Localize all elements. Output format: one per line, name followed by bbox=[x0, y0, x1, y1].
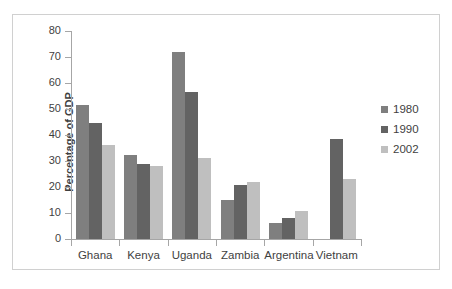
x-axis-category-label: Uganda bbox=[168, 248, 216, 263]
bar bbox=[150, 166, 163, 239]
bar bbox=[247, 182, 260, 239]
bar bbox=[89, 123, 102, 239]
y-axis-tick-label: 40 bbox=[49, 128, 61, 141]
legend-item-label: 2002 bbox=[393, 143, 419, 156]
y-axis-tick-label: 0 bbox=[55, 232, 61, 245]
bar bbox=[330, 139, 343, 239]
x-axis-tick-mark bbox=[264, 240, 265, 246]
bar bbox=[234, 185, 247, 239]
legend-swatch-icon bbox=[381, 126, 388, 133]
bar bbox=[102, 145, 115, 239]
legend-item[interactable]: 2002 bbox=[381, 139, 419, 159]
x-axis-category-label: Argentina bbox=[264, 248, 312, 263]
bar bbox=[282, 218, 295, 239]
legend-item-label: 1990 bbox=[393, 123, 419, 136]
y-axis-tick-label: 10 bbox=[49, 206, 61, 219]
bar bbox=[76, 105, 89, 239]
bar bbox=[124, 155, 137, 240]
y-axis-tick-label: 30 bbox=[49, 154, 61, 167]
x-axis-tick-mark bbox=[71, 240, 72, 246]
y-axis-tick-label: 60 bbox=[49, 76, 61, 89]
legend-item[interactable]: 1990 bbox=[381, 119, 419, 139]
bar bbox=[137, 164, 150, 239]
bar bbox=[221, 200, 234, 239]
bar bbox=[185, 92, 198, 239]
bar bbox=[198, 158, 211, 239]
bar bbox=[295, 211, 308, 239]
x-axis-tick-mark bbox=[313, 240, 314, 246]
x-axis-category-label: Vietnam bbox=[313, 248, 361, 263]
bar bbox=[172, 52, 185, 239]
legend-swatch-icon bbox=[381, 106, 388, 113]
x-axis-tick-mark bbox=[119, 240, 120, 246]
bar bbox=[343, 179, 356, 239]
bar bbox=[269, 223, 282, 239]
chart-container: Percentage of GDP 01020304050607080 Ghan… bbox=[12, 14, 440, 270]
chart-legend: 198019902002 bbox=[381, 99, 419, 159]
y-axis-tick-label: 80 bbox=[49, 24, 61, 37]
y-axis-tick-label: 20 bbox=[49, 180, 61, 193]
x-axis-tick-mark bbox=[168, 240, 169, 246]
legend-item-label: 1980 bbox=[393, 103, 419, 116]
legend-item[interactable]: 1980 bbox=[381, 99, 419, 119]
x-axis-tick-mark bbox=[361, 240, 362, 246]
x-axis-category-label: Kenya bbox=[119, 248, 167, 263]
x-axis-category-label: Ghana bbox=[71, 248, 119, 263]
y-axis-tick-label: 50 bbox=[49, 102, 61, 115]
y-axis-tick-label: 70 bbox=[49, 50, 61, 63]
x-axis-category-label: Zambia bbox=[216, 248, 264, 263]
legend-swatch-icon bbox=[381, 146, 388, 153]
plot-area bbox=[71, 31, 361, 239]
x-axis-tick-mark bbox=[216, 240, 217, 246]
